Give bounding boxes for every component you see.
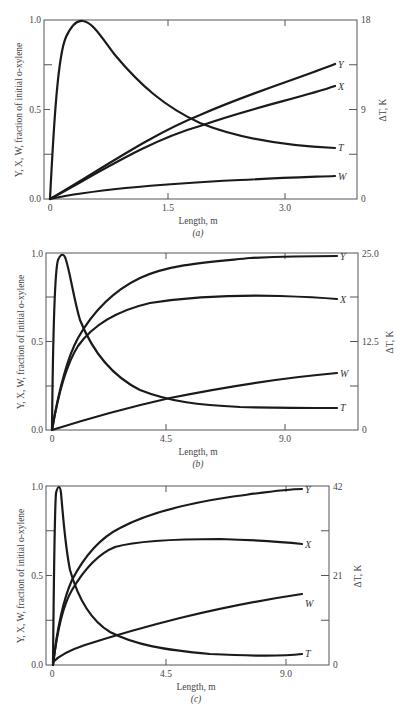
x-tick-a-0: 0	[48, 203, 53, 213]
x-tick-a-15: 1.5	[162, 203, 174, 213]
y-tick-c-05: 0.5	[31, 571, 43, 581]
y-tick-b-0: 0.0	[31, 425, 43, 435]
x-tick-b-90: 9.0	[279, 434, 291, 444]
y-tick-b-05: 0.5	[31, 337, 43, 347]
y-tick-c-0: 0.0	[31, 660, 43, 670]
series-label-b-X: X	[339, 294, 347, 305]
curve-c-X	[53, 539, 302, 665]
plot-frame-c	[46, 486, 329, 665]
series-label-a-T: T	[338, 142, 345, 153]
y-right-tick-b-25: 25.0	[362, 249, 379, 259]
series-label-b-T: T	[340, 402, 347, 413]
y-tick-c-1: 1.0	[31, 482, 43, 492]
x-axis-label-a: Length, m	[178, 216, 218, 226]
panel-label-a: (a)	[192, 228, 203, 239]
y-tick-a-1: 1.0	[29, 15, 41, 25]
y-tick-a-0: 0.0	[29, 194, 41, 204]
plot-frame-a	[44, 20, 357, 199]
y-right-tick-a-18: 18	[361, 15, 371, 25]
y-right-tick-c-0: 0	[333, 660, 338, 670]
y-tick-b-1: 1.0	[31, 249, 43, 259]
y-right-tick-c-21: 21	[333, 571, 343, 581]
y-right-tick-b-125: 12.5	[362, 337, 379, 347]
y-tick-a-05: 0.5	[29, 105, 41, 115]
panel-label-b: (b)	[192, 459, 203, 470]
x-tick-c-0: 0	[50, 669, 55, 679]
y-axis-right-label-a: ΔT, K	[378, 98, 388, 121]
panel-label-c: (c)	[191, 694, 202, 705]
x-tick-a-30: 3.0	[279, 203, 291, 213]
x-axis-label-b: Length, m	[178, 447, 218, 457]
panel-a: 1.0 0.5 0.0 18 9 0 0 1.5 3.0 Length, m (…	[14, 15, 388, 239]
curve-c-Y	[53, 489, 302, 665]
curve-b-T	[52, 255, 337, 430]
x-tick-c-90: 9.0	[280, 669, 292, 679]
y-right-tick-a-9: 9	[361, 105, 366, 115]
x-tick-b-0: 0	[50, 434, 55, 444]
curve-c-T	[53, 487, 302, 665]
curve-b-X	[52, 296, 337, 430]
series-label-c-X: X	[304, 539, 312, 550]
series-label-c-W: W	[305, 598, 315, 609]
series-label-a-Y: Y	[338, 59, 345, 70]
figure-three-panel-reactor-profiles: 1.0 0.5 0.0 18 9 0 0 1.5 3.0 Length, m (…	[0, 0, 405, 711]
x-tick-b-45: 4.5	[160, 434, 172, 444]
panel-b: 1.0 0.5 0.0 25.0 12.5 0 0 4.5 9.0 Length…	[16, 249, 395, 470]
panel-c: 1.0 0.5 0.0 42 21 0 0 4.5 9.0 Length, m …	[16, 482, 363, 705]
series-label-a-W: W	[338, 171, 348, 182]
y-axis-right-label-b: ΔT, K	[385, 330, 395, 353]
x-tick-c-45: 4.5	[160, 669, 172, 679]
y-right-tick-b-0: 0	[362, 425, 367, 435]
y-axis-label-b: Y, X, W, fraction of initial o-xylene	[16, 275, 26, 410]
curve-c-W	[53, 594, 302, 662]
series-label-b-W: W	[340, 368, 350, 379]
y-axis-label-a: Y, X, W, fraction of initial o-xylene	[14, 43, 24, 178]
series-label-a-X: X	[337, 81, 345, 92]
x-axis-label-c: Length, m	[176, 682, 216, 692]
y-right-tick-a-0: 0	[361, 194, 366, 204]
y-axis-right-label-c: ΔT, K	[353, 564, 363, 587]
curve-a-W	[50, 176, 335, 199]
series-label-c-T: T	[305, 648, 312, 659]
y-axis-label-c: Y, X, W, fraction of initial o-xylene	[16, 509, 26, 644]
curve-b-W	[52, 373, 337, 430]
y-right-tick-c-42: 42	[333, 482, 343, 492]
